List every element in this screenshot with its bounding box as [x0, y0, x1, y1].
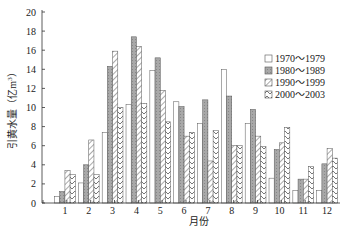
- bar: [327, 149, 332, 203]
- y-tick-label: 10: [26, 102, 36, 113]
- y-tick-label: 12: [26, 83, 36, 94]
- x-tick-label: 6: [182, 205, 187, 216]
- legend-label: 1970～1979: [275, 53, 325, 64]
- bar: [285, 128, 290, 203]
- y-tick-label: 4: [31, 159, 36, 170]
- bar: [70, 174, 75, 203]
- bar: [78, 183, 83, 203]
- bar: [256, 136, 261, 203]
- x-axis-label: 月份: [189, 216, 209, 227]
- x-tick-label: 10: [274, 205, 284, 216]
- legend-label: 1980～1989: [275, 65, 325, 76]
- y-tick-label: 6: [31, 140, 36, 151]
- legend-swatch: [265, 55, 272, 62]
- bar: [142, 104, 147, 203]
- bar: [107, 66, 112, 203]
- x-tick-label: 1: [62, 205, 67, 216]
- bar: [198, 124, 203, 203]
- bar: [250, 109, 255, 203]
- bar: [155, 58, 160, 203]
- bar: [274, 150, 279, 203]
- legend-label: 2000～2003: [275, 89, 325, 100]
- bar: [221, 69, 226, 203]
- bar: [160, 90, 165, 203]
- bar: [261, 147, 266, 203]
- x-tick-label: 12: [322, 205, 332, 216]
- bar: [203, 100, 208, 203]
- bar: [232, 146, 237, 203]
- y-tick-label: 18: [26, 26, 36, 37]
- legend-swatch: [265, 79, 272, 86]
- bar: [308, 167, 313, 203]
- bar: [213, 130, 218, 203]
- y-tick-label: 16: [26, 45, 36, 56]
- x-tick-label: 4: [134, 205, 139, 216]
- y-tick-label: 20: [26, 7, 36, 18]
- bar: [179, 107, 184, 203]
- bar: [322, 164, 327, 203]
- bar: [279, 143, 284, 203]
- y-axis-label: 引黄水量（亿m3）: [6, 67, 18, 148]
- bar: [55, 196, 60, 203]
- bar: [94, 174, 99, 203]
- bar: [89, 140, 94, 203]
- bar: [150, 70, 155, 203]
- legend-label: 1990～1999: [275, 77, 325, 88]
- x-tick-label: 5: [158, 205, 163, 216]
- bar: [165, 122, 170, 203]
- bar: [189, 132, 194, 203]
- bar: [126, 105, 131, 203]
- bar: [208, 161, 213, 203]
- bar: [113, 51, 118, 203]
- bar: [269, 178, 274, 203]
- x-tick-label: 11: [298, 205, 308, 216]
- bar-chart: 02468101214161820123456789101112 1970～19…: [0, 0, 351, 237]
- bar: [60, 192, 65, 203]
- bar: [298, 179, 303, 203]
- y-tick-label: 14: [26, 64, 36, 75]
- bar: [136, 46, 141, 203]
- bar: [184, 136, 189, 203]
- bar: [131, 37, 136, 203]
- bar: [84, 165, 89, 203]
- bar: [65, 171, 70, 203]
- bar: [317, 191, 322, 203]
- y-tick-label: 2: [31, 178, 36, 189]
- bar: [227, 96, 232, 203]
- bar: [303, 179, 308, 203]
- bar: [102, 132, 107, 203]
- bar: [332, 158, 337, 203]
- x-tick-label: 9: [253, 205, 258, 216]
- bar: [237, 146, 242, 203]
- x-tick-label: 8: [229, 205, 234, 216]
- legend-swatch: [265, 67, 272, 74]
- bar: [174, 102, 179, 203]
- y-tick-label: 8: [31, 121, 36, 132]
- bar: [118, 108, 123, 204]
- y-tick-label: 0: [31, 198, 36, 209]
- legend-swatch: [265, 91, 272, 98]
- x-tick-label: 7: [205, 205, 210, 216]
- legend: 1970～19791980～19891990～19992000～2003: [265, 53, 325, 100]
- bar: [245, 124, 250, 203]
- x-tick-label: 3: [110, 205, 115, 216]
- x-tick-label: 2: [86, 205, 91, 216]
- bar: [293, 191, 298, 203]
